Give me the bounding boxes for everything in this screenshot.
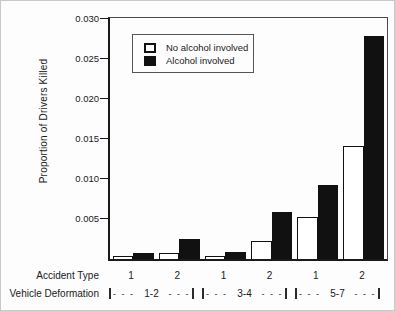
bracket-dashes: - - - <box>354 289 376 299</box>
y-tick-label: 0.030 <box>59 13 99 24</box>
accident-type-row-label: Accident Type <box>1 270 99 281</box>
accident-type-value: 1 <box>128 270 134 281</box>
bar-alcohol-4 <box>272 212 293 259</box>
y-tick-mark <box>100 138 108 139</box>
bar-alcohol-1 <box>133 253 154 259</box>
bar-no-alcohol-6 <box>343 146 364 259</box>
y-tick-mark <box>100 58 108 59</box>
accident-type-value: 2 <box>267 270 273 281</box>
bar-alcohol-5 <box>318 185 339 259</box>
y-axis-title: Proportion of Drivers Killed <box>38 59 49 184</box>
deformation-group-5-7: - - - 5-7 - - - <box>295 288 380 299</box>
bar-alcohol-2 <box>179 239 200 259</box>
legend: No alcohol involved Alcohol involved <box>132 34 254 73</box>
legend-label-no-alcohol: No alcohol involved <box>166 42 248 53</box>
deformation-group-label: 3-4 <box>236 289 252 299</box>
bracket-dashes: - - - <box>299 289 321 299</box>
accident-type-value: 1 <box>221 270 227 281</box>
y-tick-mark <box>100 178 108 179</box>
bar-no-alcohol-3 <box>205 256 226 259</box>
deformation-group-1-2: - - - 1-2 - - - <box>109 288 194 299</box>
vehicle-deformation-row-label: Vehicle Deformation <box>1 288 99 299</box>
legend-item-alcohol: Alcohol involved <box>144 54 247 67</box>
y-tick-label: 0.010 <box>59 173 99 184</box>
y-tick-mark <box>100 218 108 219</box>
accident-type-value: 2 <box>174 270 180 281</box>
y-tick-label: 0.005 <box>59 213 99 224</box>
legend-label-alcohol: Alcohol involved <box>166 55 235 66</box>
bar-no-alcohol-5 <box>297 217 318 259</box>
y-tick-mark <box>100 98 108 99</box>
legend-item-no-alcohol: No alcohol involved <box>144 41 247 54</box>
deformation-group-label: 1-2 <box>143 289 159 299</box>
y-tick-label: 0.025 <box>59 53 99 64</box>
deformation-group-3-4: - - - 3-4 - - - <box>202 288 287 299</box>
accident-type-value: 2 <box>359 270 365 281</box>
bar-no-alcohol-2 <box>159 253 180 259</box>
accident-type-value: 1 <box>313 270 319 281</box>
bracket-dashes: - - - <box>261 289 283 299</box>
y-tick-label: 0.020 <box>59 93 99 104</box>
alcohol-swatch-icon <box>144 56 156 66</box>
figure: Proportion of Drivers Killed No alcohol … <box>0 0 395 311</box>
no-alcohol-swatch-icon <box>144 43 156 53</box>
y-tick-label: 0.015 <box>59 133 99 144</box>
bar-alcohol-6 <box>364 36 385 259</box>
y-tick-mark <box>100 18 108 19</box>
bar-no-alcohol-1 <box>113 256 134 259</box>
bar-no-alcohol-4 <box>251 241 272 259</box>
bar-alcohol-3 <box>225 252 246 259</box>
bracket-dashes: - - - <box>168 289 190 299</box>
deformation-group-label: 5-7 <box>329 289 345 299</box>
bracket-dashes: - - - <box>206 289 228 299</box>
bracket-dashes: - - - <box>113 289 135 299</box>
